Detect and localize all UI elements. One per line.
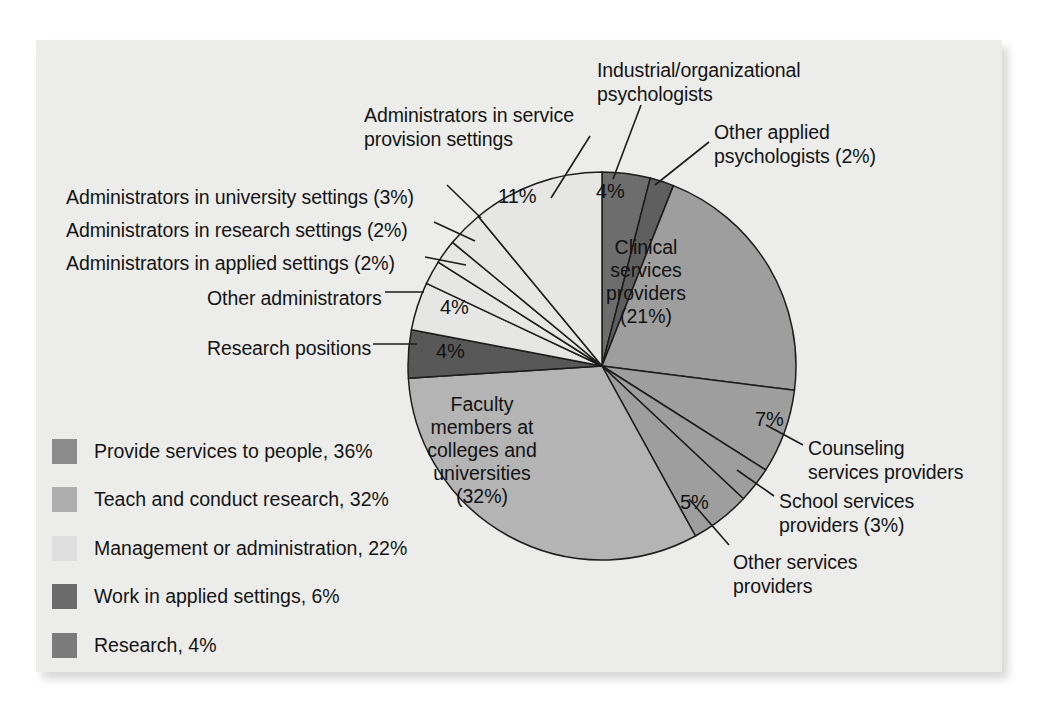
chart-legend: Provide services to people, 36%Teach and… — [52, 432, 407, 675]
legend-swatch — [52, 487, 77, 512]
other-services-pct: 5% — [680, 492, 709, 512]
legend-item[interactable]: Teach and conduct research, 32% — [52, 481, 407, 519]
callout-administrators-in-service-provision-settings: Administrators in service provision sett… — [364, 104, 574, 151]
leader-university-admins — [447, 185, 481, 218]
callout-other-administrators: Other administrators — [207, 287, 382, 311]
research-positions-pct: 4% — [436, 341, 465, 361]
callout-research-positions: Research positions — [207, 337, 371, 361]
leader-other-applied — [655, 142, 709, 185]
callout-other-applied-psychologists: Other applied psychologists (2%) — [714, 121, 876, 168]
legend-label: Work in applied settings, 6% — [94, 585, 340, 608]
callout-administrators-in-applied-settings: Administrators in applied settings (2%) — [66, 252, 395, 276]
legend-swatch — [52, 536, 77, 561]
legend-label: Provide services to people, 36% — [94, 440, 373, 463]
industrial-organizational-pct: 4% — [596, 181, 625, 201]
legend-label: Teach and conduct research, 32% — [94, 488, 389, 511]
legend-swatch — [52, 439, 77, 464]
pie-inside-label-faculty: Faculty members at colleges and universi… — [427, 393, 537, 508]
callout-administrators-in-university-settings: Administrators in university settings (3… — [66, 186, 414, 210]
legend-label: Management or administration, 22% — [94, 537, 407, 560]
service-provision-admins-pct: 11% — [498, 186, 537, 206]
pie-inside-label-clinical: Clinical services providers (21%) — [606, 236, 686, 328]
legend-swatch — [52, 584, 77, 609]
callout-other-services-providers: Other services providers — [733, 551, 857, 598]
legend-item[interactable]: Management or administration, 22% — [52, 529, 407, 567]
legend-swatch — [52, 633, 77, 658]
callout-industrial-organizational-psychologists: Industrial/organizational psychologists — [597, 59, 800, 106]
callout-administrators-in-research-settings: Administrators in research settings (2%) — [66, 219, 408, 243]
callout-school-services-providers: School services providers (3%) — [779, 490, 914, 537]
leader-industrial-organizational — [613, 105, 641, 179]
legend-item[interactable]: Research, 4% — [52, 626, 407, 664]
legend-item[interactable]: Provide services to people, 36% — [52, 432, 407, 470]
legend-item[interactable]: Work in applied settings, 6% — [52, 578, 407, 616]
counseling-services-pct: 7% — [755, 409, 784, 429]
legend-label: Research, 4% — [94, 634, 216, 657]
pie-chart-figure: Clinical services providers (21%) Facult… — [0, 0, 1057, 726]
callout-counseling-services-providers: Counseling services providers — [808, 437, 963, 484]
other-administrators-pct: 4% — [440, 297, 469, 317]
